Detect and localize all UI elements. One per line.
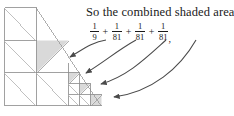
figure-page: So the combined shaded area is 1 9 + 1 8… (0, 0, 234, 116)
arrow-to-shaded-small (101, 40, 166, 84)
figure-lines (5, 8, 102, 106)
sub2-diagonal-a (69, 84, 80, 95)
diagonal-cell-r2c1 (5, 41, 37, 73)
plus-operator-1: + (103, 26, 109, 37)
fraction-numerator: 1 (137, 22, 143, 31)
fraction-term-1: 1 9 (90, 22, 99, 41)
formula-expression: 1 9 + 1 81 + 1 81 + 1 81 , (89, 22, 172, 41)
fraction-denominator: 81 (135, 32, 146, 41)
fraction-term-2: 1 81 (112, 22, 123, 41)
fraction-term-4: 1 81 (158, 22, 169, 41)
plus-operator-3: + (149, 26, 155, 37)
fraction-numerator: 1 (160, 22, 166, 31)
fraction-numerator: 1 (114, 22, 120, 31)
plus-operator-2: + (126, 26, 132, 37)
caption-text: So the combined shaded area is (86, 5, 234, 20)
sub2-diagonal-b (69, 95, 80, 106)
fraction-term-3: 1 81 (135, 22, 146, 41)
shaded-regions (37, 41, 102, 106)
fraction-numerator: 1 (91, 22, 97, 31)
diagonal-cell-r3c1 (5, 73, 37, 106)
arrow-to-shaded-large (70, 40, 106, 57)
diagonal-cell-r3c2 (37, 73, 69, 106)
arrow-to-shaded-medium (86, 40, 136, 73)
fraction-denominator: 81 (112, 32, 123, 41)
diagonal-cell-r1c1 (5, 8, 37, 41)
trailing-comma: , (168, 33, 171, 44)
fraction-denominator: 81 (158, 32, 169, 41)
pointer-arrows (70, 40, 196, 97)
fraction-denominator: 9 (91, 32, 97, 41)
arrow-to-shaded-tiny (114, 40, 196, 97)
sub2-diagonal-c (80, 95, 91, 106)
